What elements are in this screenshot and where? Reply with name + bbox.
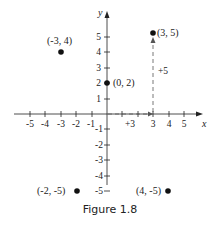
y-tick-label: -4 [95, 171, 103, 181]
point-label: (3, 5) [157, 27, 179, 39]
x-tick-label: -3 [57, 119, 65, 129]
point-3-5 [150, 30, 156, 36]
point-neg2-neg5 [74, 188, 80, 194]
y-tick-label: -2 [95, 140, 103, 150]
y-tick-label: -1 [95, 124, 103, 134]
y-tick-label: 4 [96, 47, 101, 57]
y-axis-label: y [97, 7, 103, 18]
x-tick-label: -2 [72, 119, 80, 129]
point-label: (0, 2) [113, 77, 135, 89]
horizontal-step-arrow-icon [148, 112, 153, 117]
y-tick-label: 2 [96, 78, 101, 88]
y-tick-label: -3 [95, 155, 103, 165]
y-tick-label: 1 [96, 94, 101, 104]
step-label-horizontal: +3 [125, 119, 135, 129]
point-label: (-3, 4) [47, 35, 72, 47]
vertical-step-arrow-icon [151, 37, 156, 43]
x-axis-arrow-icon [196, 112, 203, 117]
x-tick-label: 3 [151, 119, 156, 129]
x-tick-label: 5 [182, 119, 187, 129]
point-label: (-2, -5) [37, 185, 65, 197]
y-tick-label: 3 [96, 63, 101, 73]
coordinate-plane: -5 -4 -3 -2 -1 3 4 5 +3 5 4 3 2 1 -1 -2 … [0, 0, 220, 231]
point-label: (4, -5) [136, 185, 161, 197]
x-tick-label: 4 [167, 119, 172, 129]
x-axis-label: x [201, 118, 207, 129]
point-0-2 [104, 80, 110, 86]
figure-caption: Figure 1.8 [0, 203, 220, 216]
x-tick-label: -4 [41, 119, 49, 129]
x-tick-label: -5 [26, 119, 34, 129]
x-tick-label: -1 [87, 119, 95, 129]
y-tick-label: -5 [95, 186, 103, 196]
y-tick-label: 5 [96, 32, 101, 42]
step-label-vertical: +5 [158, 66, 168, 76]
point-neg3-4 [58, 49, 64, 55]
y-axis-arrow-icon [105, 11, 110, 18]
point-4-neg5 [165, 188, 171, 194]
